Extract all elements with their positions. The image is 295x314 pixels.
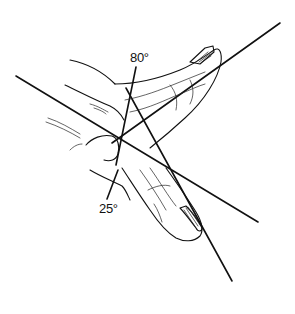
hand-angle-illustration: 80° 25°	[0, 0, 295, 314]
upper-finger-dorsal-line	[70, 60, 115, 84]
angle-label-25: 25°	[99, 202, 118, 215]
crease-line-3	[70, 144, 82, 150]
upper-fingernail	[190, 46, 214, 64]
angle-leader-25	[107, 170, 118, 199]
crease-line-2	[90, 104, 108, 114]
lower-hand-outline	[90, 170, 130, 200]
angle-label-80: 80°	[130, 51, 149, 64]
crease-line-1	[46, 118, 80, 138]
middle-hand-outline	[65, 85, 124, 120]
illustration-canvas	[0, 0, 295, 314]
knuckle-outline	[86, 135, 119, 160]
lower-fingernail	[180, 206, 202, 231]
lower-joint-contour	[148, 185, 170, 222]
axis-line-lower-finger	[126, 88, 232, 281]
axis-line-distal-finger	[112, 23, 280, 143]
axis-line-proximal	[16, 76, 258, 222]
